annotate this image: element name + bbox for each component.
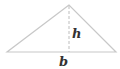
- base-label: b: [59, 54, 68, 69]
- triangle-diagram: h b: [0, 0, 120, 69]
- height-label: h: [72, 26, 81, 41]
- triangle: [7, 5, 116, 52]
